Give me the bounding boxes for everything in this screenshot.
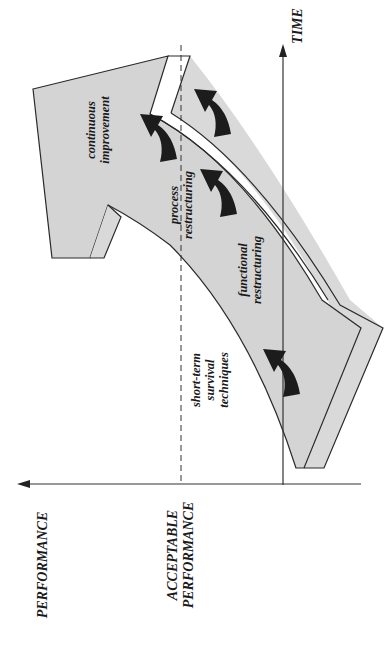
performance-axis bbox=[17, 480, 361, 488]
performance-axis-label: PERFORMANCE bbox=[35, 512, 50, 619]
performance-axis-arrowhead-icon bbox=[17, 480, 30, 488]
stage-label-short-term: short-term bbox=[189, 353, 203, 408]
stage-label-short-term-3: techniques bbox=[217, 352, 231, 408]
time-axis-label: TIME bbox=[290, 8, 305, 44]
acceptable-performance-label-2: PERFORMANCE bbox=[181, 502, 196, 609]
stage-label-process-1: process bbox=[167, 186, 181, 225]
stage-label-process-2: restructuring bbox=[181, 171, 195, 239]
stage-label-functional-1: functional bbox=[236, 243, 250, 297]
performance-improvement-diagram: short-term survival techniques functiona… bbox=[0, 0, 391, 660]
stage-label-short-term-2: survival bbox=[203, 359, 217, 402]
stage-label-continuous-1: continuous bbox=[84, 101, 98, 159]
stage-label-continuous-2: improvement bbox=[98, 96, 112, 164]
time-axis-arrowhead-icon bbox=[279, 44, 287, 57]
acceptable-performance-label-1: ACCEPTABLE bbox=[165, 510, 180, 601]
stage-label-functional-2: restructuring bbox=[250, 236, 264, 304]
